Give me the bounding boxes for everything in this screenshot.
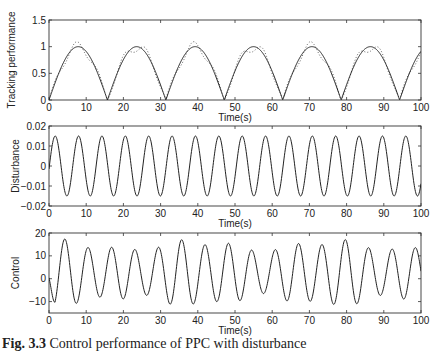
y-tick-label: −0.01: [21, 181, 47, 192]
y-tick-label: 1.5: [32, 15, 46, 26]
x-tick-label: 40: [192, 102, 204, 113]
x-tick-label: 60: [267, 102, 279, 113]
x-tick-label: 100: [413, 102, 430, 113]
x-tick-label: 70: [304, 102, 316, 113]
x-tick-label: 10: [81, 102, 93, 113]
x-tick-label: 60: [267, 208, 279, 219]
y-tick-label: 0.5: [32, 68, 46, 79]
y-axis-label: Control: [10, 257, 21, 289]
x-tick-label: 100: [413, 208, 430, 219]
disturbance-plot: 0102030405060708090100Time(s)−0.02−0.010…: [10, 121, 430, 230]
x-tick-label: 70: [304, 208, 316, 219]
x-tick-label: 70: [304, 315, 316, 326]
y-tick-label: 0: [40, 273, 46, 284]
x-tick-label: 100: [413, 315, 430, 326]
y-tick-label: 1: [40, 41, 46, 52]
control-plot: 0102030405060708090100Time(s)−1001020Con…: [10, 228, 430, 337]
y-tick-label: 0.01: [27, 141, 47, 152]
y-tick-label: 0: [40, 161, 46, 172]
x-tick-label: 0: [46, 208, 52, 219]
control-line: [49, 239, 421, 304]
x-tick-label: 40: [192, 315, 204, 326]
x-tick-label: 20: [118, 315, 130, 326]
reference-line: [49, 47, 421, 100]
caption-text: Control performance of PPC with disturba…: [46, 336, 307, 351]
y-tick-label: −10: [29, 296, 46, 307]
x-tick-label: 10: [81, 208, 93, 219]
x-tick-label: 80: [341, 102, 353, 113]
x-axis-label: Time(s): [218, 325, 252, 336]
figure: 0102030405060708090100Time(s)00.511.5Tra…: [0, 0, 444, 340]
y-tick-label: 10: [35, 250, 47, 261]
x-tick-label: 0: [46, 315, 52, 326]
x-tick-label: 20: [118, 208, 130, 219]
x-tick-label: 80: [341, 208, 353, 219]
x-tick-label: 0: [46, 102, 52, 113]
figure-caption: Fig. 3.3 Control performance of PPC with…: [2, 336, 306, 352]
y-tick-label: 20: [35, 228, 47, 239]
x-tick-label: 40: [192, 208, 204, 219]
x-tick-label: 60: [267, 315, 279, 326]
caption-label: Fig. 3.3: [2, 336, 46, 351]
y-tick-label: 0: [40, 95, 46, 106]
y-axis-label: Disturbance: [10, 139, 21, 193]
x-tick-label: 20: [118, 102, 130, 113]
x-tick-label: 30: [155, 315, 167, 326]
disturbance-line: [49, 136, 421, 196]
axes-frame: [49, 233, 421, 313]
y-tick-label: 0.02: [27, 121, 47, 132]
y-axis-label: Tracking performance: [6, 11, 17, 108]
tracking-performance-plot: 0102030405060708090100Time(s)00.511.5Tra…: [6, 11, 430, 123]
x-tick-label: 90: [378, 102, 390, 113]
axes-frame: [49, 20, 421, 100]
x-axis-label: Time(s): [218, 218, 252, 229]
y-tick-label: −0.02: [21, 201, 47, 212]
x-axis-label: Time(s): [218, 112, 252, 123]
x-tick-label: 30: [155, 102, 167, 113]
x-tick-label: 90: [378, 208, 390, 219]
x-tick-label: 10: [81, 315, 93, 326]
x-tick-label: 30: [155, 208, 167, 219]
x-tick-label: 80: [341, 315, 353, 326]
x-tick-label: 90: [378, 315, 390, 326]
